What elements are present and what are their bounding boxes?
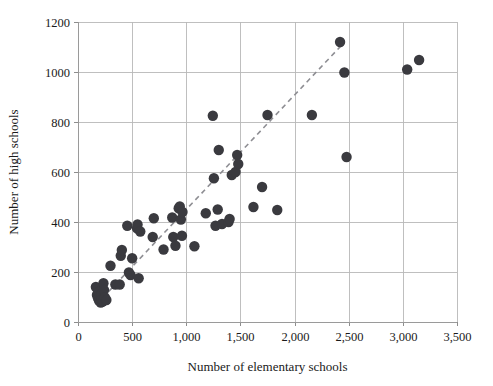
data-point	[135, 226, 145, 236]
data-point	[272, 205, 282, 215]
data-point	[335, 37, 345, 47]
x-tick-label: 500	[123, 330, 142, 344]
x-tick-label: 2,500	[335, 330, 363, 344]
x-tick-label: 3,500	[443, 330, 471, 344]
data-point	[414, 55, 424, 65]
data-point	[189, 241, 199, 251]
x-tick-label: 1,000	[172, 330, 200, 344]
y-tick-label: 400	[51, 216, 70, 230]
x-tick-label: 0	[75, 330, 81, 344]
data-point	[177, 207, 187, 217]
y-tick-label: 0	[64, 316, 70, 330]
x-tick-label: 3,000	[389, 330, 417, 344]
data-point	[105, 261, 115, 271]
trend-line	[96, 46, 341, 305]
data-point	[209, 173, 219, 183]
data-point	[257, 182, 267, 192]
x-axis-title: Number of elementary schools	[188, 359, 348, 374]
data-point	[233, 159, 243, 169]
data-point	[212, 204, 222, 214]
data-point	[201, 208, 211, 218]
data-point	[127, 253, 137, 263]
data-point	[402, 64, 412, 74]
data-point	[339, 67, 349, 77]
data-point	[114, 279, 124, 289]
y-tick-label: 200	[51, 266, 70, 280]
data-point	[232, 150, 242, 160]
data-point	[117, 245, 127, 255]
scatter-plot: 05001,0001,5002,0002,5003,0003,500020040…	[0, 0, 493, 386]
data-point	[148, 232, 158, 242]
x-tick-label: 1,500	[226, 330, 254, 344]
data-point	[208, 111, 218, 121]
data-point	[177, 231, 187, 241]
y-axis-title: Number of high schools	[6, 109, 21, 234]
y-tick-label: 600	[51, 166, 70, 180]
data-point	[133, 273, 143, 283]
data-point	[307, 110, 317, 120]
data-point	[262, 110, 272, 120]
data-point	[149, 213, 159, 223]
x-tick-label: 2,000	[281, 330, 309, 344]
y-tick-label: 1000	[45, 66, 70, 80]
y-tick-label: 1200	[45, 16, 70, 30]
y-tick-label: 800	[51, 116, 70, 130]
data-point	[122, 221, 132, 231]
data-point	[248, 202, 258, 212]
data-point	[158, 244, 168, 254]
data-point	[101, 295, 111, 305]
data-point	[214, 145, 224, 155]
data-point	[167, 212, 177, 222]
data-point	[170, 241, 180, 251]
data-point	[341, 152, 351, 162]
data-point	[224, 214, 234, 224]
chart-container: 05001,0001,5002,0002,5003,0003,500020040…	[0, 0, 493, 386]
